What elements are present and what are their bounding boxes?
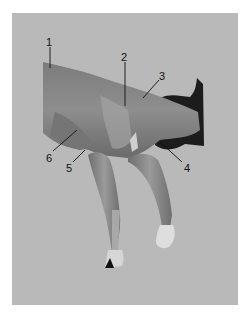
leader-line-5 — [73, 150, 85, 162]
right-hoof — [156, 225, 175, 248]
label-6: 6 — [46, 152, 52, 164]
left-cannon — [112, 210, 120, 250]
label-5: 5 — [66, 162, 72, 174]
label-1: 1 — [46, 36, 52, 48]
label-4: 4 — [184, 162, 190, 174]
label-2: 2 — [121, 51, 127, 63]
anatomy-figure: 1 2 3 4 5 6 — [0, 0, 244, 317]
label-3: 3 — [159, 70, 165, 82]
right-foreleg — [128, 154, 172, 228]
